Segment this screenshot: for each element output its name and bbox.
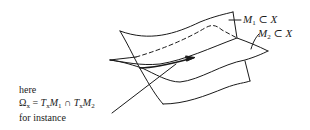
m1-top-edge [120, 12, 233, 36]
m2-back-edge-left [110, 57, 136, 60]
omega-leader-line [112, 64, 176, 113]
m1-bottom-edge [163, 81, 250, 104]
tangent-arrow-icon [186, 56, 195, 61]
m1-right-edge-upper [233, 12, 237, 38]
annotation-here: here [19, 84, 95, 97]
omega-annotation: here Ωx = TxM1 ∩ TxM2 for instance [19, 84, 95, 125]
m2-back-edge-dashed [136, 26, 237, 57]
m1-right-edge-lower [245, 61, 250, 81]
annotation-formula: Ωx = TxM1 ∩ TxM2 [19, 97, 95, 113]
annotation-for-instance: for instance [19, 112, 95, 125]
m2-label: M2 ⊂ X [258, 27, 292, 43]
